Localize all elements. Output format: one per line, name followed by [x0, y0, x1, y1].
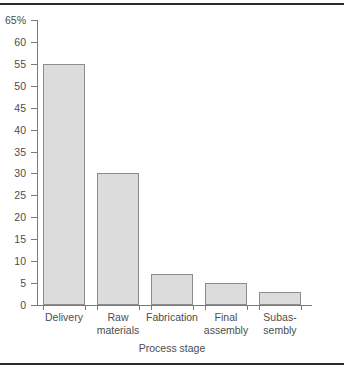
x-axis-tick [205, 305, 206, 310]
y-axis-tick [31, 64, 37, 65]
y-axis-tick [31, 130, 37, 131]
x-axis-title: Process stage [0, 342, 344, 354]
y-axis-tick-label: 15 [0, 234, 26, 244]
bar[interactable] [205, 283, 247, 305]
y-axis-tick-label: 25 [0, 190, 26, 200]
x-axis-tick [247, 305, 248, 310]
x-axis-tick [43, 305, 44, 310]
y-axis-tick-label: 60 [0, 37, 26, 47]
y-axis-tick-label: 35 [0, 147, 26, 157]
x-axis-tick [85, 305, 86, 310]
y-axis-tick-label: 10 [0, 256, 26, 266]
x-axis-tick [151, 305, 152, 310]
x-axis-tick [193, 305, 194, 310]
bar[interactable] [43, 64, 85, 305]
x-axis-tick [139, 305, 140, 310]
y-axis-tick [31, 42, 37, 43]
y-axis-line [37, 20, 38, 306]
x-axis-line [37, 305, 312, 306]
figure: 05101520253035404550556065% DeliveryRawm… [0, 0, 344, 375]
y-axis-tick-label: 65% [0, 15, 26, 25]
y-axis-tick-label: 45 [0, 103, 26, 113]
x-axis-tick [301, 305, 302, 310]
y-axis-tick [31, 217, 37, 218]
y-axis-tick-label: 40 [0, 125, 26, 135]
bar[interactable] [97, 173, 139, 305]
y-axis-tick [31, 108, 37, 109]
y-axis-tick-label: 20 [0, 212, 26, 222]
x-axis-tick [259, 305, 260, 310]
y-axis-tick [31, 283, 37, 284]
y-axis-tick-label: 30 [0, 168, 26, 178]
y-axis-tick-label: 55 [0, 59, 26, 69]
y-axis-tick [31, 152, 37, 153]
y-axis-tick [31, 20, 37, 21]
y-axis-tick-label: 50 [0, 81, 26, 91]
y-axis-tick-label: 0 [0, 300, 26, 310]
bar[interactable] [151, 274, 193, 305]
y-axis-tick [31, 86, 37, 87]
y-axis-tick [31, 239, 37, 240]
y-axis-tick [31, 195, 37, 196]
bar-chart-plot: 05101520253035404550556065% DeliveryRawm… [0, 0, 344, 375]
x-axis-tick [97, 305, 98, 310]
y-axis-tick-label: 5 [0, 278, 26, 288]
y-axis-tick [31, 305, 37, 306]
x-axis-label: Subas-sembly [240, 311, 320, 336]
y-axis-tick [31, 173, 37, 174]
y-axis-tick [31, 261, 37, 262]
bar[interactable] [259, 292, 301, 305]
